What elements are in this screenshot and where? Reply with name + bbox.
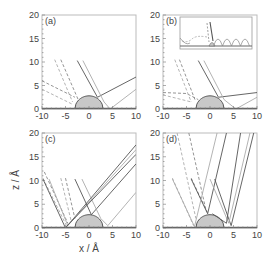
- panel-a: -10-5051005101520(a): [29, 10, 141, 121]
- x-tick-label: -5: [61, 111, 69, 121]
- y-tick-label: 0: [155, 104, 160, 114]
- x-tick-label: 5: [231, 111, 236, 121]
- y-tick-label: 0: [34, 104, 39, 114]
- y-tick-label: 0: [155, 223, 160, 233]
- x-tick-label: -5: [61, 230, 69, 240]
- x-tick-label: 0: [86, 230, 91, 240]
- y-tick-label: 15: [150, 34, 160, 44]
- x-tick-label: 5: [110, 111, 115, 121]
- x-tick-label: -5: [182, 111, 190, 121]
- y-tick-label: 20: [150, 10, 160, 20]
- x-tick-label: 0: [207, 230, 212, 240]
- y-tick-label: 10: [150, 176, 160, 186]
- y-tick-label: 20: [150, 128, 160, 138]
- panel-b: -10-5051005101520(b): [150, 10, 262, 121]
- figure-canvas: -10-5051005101520(a)-10-5051005101520(b)…: [0, 0, 270, 264]
- panel-label: (a): [45, 16, 56, 26]
- x-tick-label: 10: [252, 230, 262, 240]
- y-tick-label: 10: [150, 57, 160, 67]
- panel-d: -10-5051005101520(d): [150, 128, 262, 240]
- panel-c: -10-5051005101520(c): [29, 128, 141, 240]
- y-tick-label: 10: [29, 176, 39, 186]
- panel-label: (c): [45, 134, 56, 144]
- x-tick-label: 0: [86, 111, 91, 121]
- x-tick-label: -5: [182, 230, 190, 240]
- y-tick-label: 20: [29, 10, 39, 20]
- y-tick-label: 15: [29, 152, 39, 162]
- x-tick-label: 0: [207, 111, 212, 121]
- x-tick-label: 10: [252, 111, 262, 121]
- plot-frame: [163, 133, 257, 228]
- y-tick-label: 15: [150, 152, 160, 162]
- y-tick-label: 5: [155, 81, 160, 91]
- panel-label: (d): [166, 134, 177, 144]
- x-tick-label: 10: [131, 111, 141, 121]
- y-tick-label: 5: [34, 199, 39, 209]
- y-tick-label: 5: [34, 81, 39, 91]
- y-tick-label: 5: [155, 199, 160, 209]
- x-tick-label: 5: [231, 230, 236, 240]
- y-tick-label: 20: [29, 128, 39, 138]
- x-tick-label: 10: [131, 230, 141, 240]
- x-axis-label: x / Å: [79, 242, 99, 254]
- y-tick-label: 0: [34, 223, 39, 233]
- panel-label: (b): [166, 16, 177, 26]
- y-tick-label: 10: [29, 57, 39, 67]
- y-tick-label: 15: [29, 34, 39, 44]
- inset: [180, 17, 252, 49]
- y-axis-label: z / Å: [9, 170, 21, 190]
- x-tick-label: 5: [110, 230, 115, 240]
